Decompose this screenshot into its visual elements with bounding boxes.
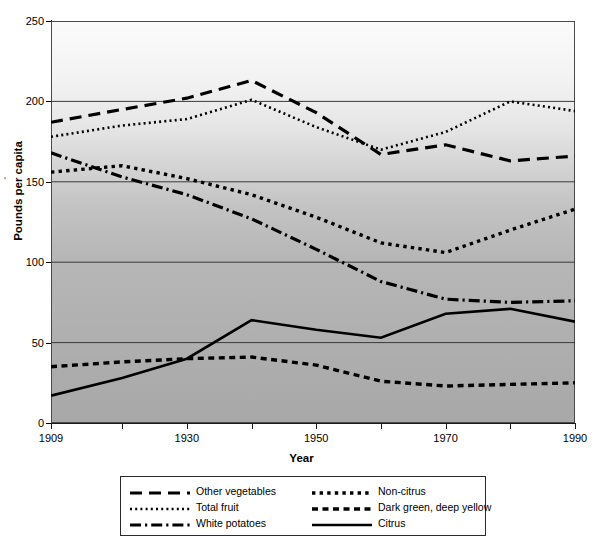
- y-axis-label: Pounds per capita: [12, 111, 24, 271]
- series-line: [51, 81, 575, 161]
- y-axis-tick-label: 150: [26, 176, 44, 188]
- legend-item[interactable]: Citrus: [311, 515, 485, 531]
- legend-item[interactable]: White potatoes: [129, 515, 304, 531]
- x-axis-tick-mark: [316, 423, 317, 429]
- legend-item-label: Non-citrus: [378, 485, 426, 497]
- y-axis-tick-label: 100: [26, 256, 44, 268]
- x-axis-tick-mark: [122, 423, 123, 429]
- x-axis-tick-label: 1950: [304, 432, 328, 444]
- plot-area: [51, 21, 575, 423]
- x-axis-tick-label: 1970: [433, 432, 457, 444]
- legend-line-sample: [129, 517, 191, 529]
- series-line: [51, 309, 575, 396]
- legend-column-right: Non-citrusDark green, deep yellowCitrus: [311, 483, 485, 531]
- x-axis-tick-mark: [510, 423, 511, 429]
- y-axis-tick-label: 200: [26, 95, 44, 107]
- legend-item[interactable]: Other vegetables: [129, 483, 304, 499]
- x-axis-tick-mark: [187, 423, 188, 429]
- plot-lines: [51, 21, 575, 423]
- x-axis-tick-mark: [51, 423, 52, 429]
- x-axis-tick-mark: [575, 423, 576, 429]
- legend-item[interactable]: Dark green, deep yellow: [311, 499, 485, 515]
- legend-item[interactable]: Non-citrus: [311, 483, 485, 499]
- x-axis-tick-mark: [381, 423, 382, 429]
- y-axis-tick-label: 0: [38, 417, 44, 429]
- x-axis-tick-mark: [446, 423, 447, 429]
- legend-line-sample: [129, 485, 191, 497]
- legend-item-label: Other vegetables: [196, 485, 276, 497]
- legend-item-label: Citrus: [378, 517, 405, 529]
- x-axis-tick-label: 1930: [175, 432, 199, 444]
- legend-line-sample: [311, 501, 373, 513]
- x-axis-tick-label: 1990: [563, 432, 587, 444]
- legend-column-left: Other vegetablesTotal fruitWhite potatoe…: [129, 483, 304, 531]
- x-axis-tick-mark: [252, 423, 253, 429]
- x-axis-label: Year: [0, 452, 603, 464]
- figure: ' Pounds per capita 050100150200250 1909…: [0, 0, 603, 551]
- legend-line-sample: [129, 501, 191, 513]
- y-axis-tick-label: 250: [26, 15, 44, 27]
- legend-item[interactable]: Total fruit: [129, 499, 304, 515]
- x-axis-tick-label: 1909: [39, 432, 63, 444]
- legend-item-label: Total fruit: [196, 501, 239, 513]
- legend-item-label: Dark green, deep yellow: [378, 501, 491, 513]
- legend-line-sample: [311, 517, 373, 529]
- legend-line-sample: [311, 485, 373, 497]
- y-axis-tick-label: 50: [32, 337, 44, 349]
- series-line: [51, 153, 575, 303]
- stray-axis-mark: ': [4, 176, 6, 187]
- legend: Other vegetablesTotal fruitWhite potatoe…: [120, 476, 486, 536]
- x-axis-line: [50, 423, 576, 424]
- series-line: [51, 166, 575, 253]
- series-line: [51, 357, 575, 386]
- legend-item-label: White potatoes: [196, 517, 266, 529]
